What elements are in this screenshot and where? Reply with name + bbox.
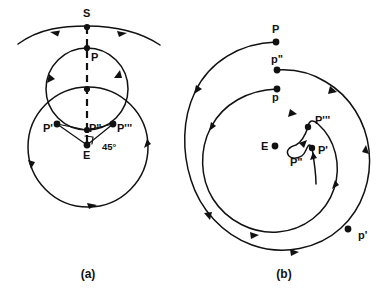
panel-a-group: S P P' P" P''' E 45° (a)	[18, 7, 160, 281]
label-P-prime: P'	[43, 122, 53, 134]
middle-arm-arrow-bottom	[250, 232, 259, 239]
label-b-P: P	[272, 23, 279, 35]
point-E	[84, 142, 91, 149]
label-S: S	[83, 7, 90, 19]
inner-loop-arrow-tail	[310, 152, 317, 160]
middle-arm-arrow-left	[209, 122, 216, 131]
label-P: P	[91, 51, 98, 63]
label-b-p-double-prime: p"	[271, 53, 283, 65]
label-b-P-double-prime: P"	[290, 156, 303, 168]
middle-arm-arrow-right	[332, 180, 339, 189]
label-b-E: E	[261, 140, 268, 152]
point-b-E	[272, 143, 279, 150]
sphere-arc-arrow-right	[117, 31, 127, 37]
point-b-P-prime	[309, 145, 315, 151]
label-b-P-prime: P'	[318, 144, 328, 156]
label-b-p: p	[272, 91, 279, 103]
point-P-triple-prime	[110, 121, 117, 128]
point-P-prime	[54, 121, 61, 128]
caption-panel-b: (b)	[276, 267, 291, 281]
point-b-P	[273, 39, 280, 46]
outer-arm-arrow-lower-left	[204, 212, 212, 220]
spiral-middle-arm	[203, 89, 338, 232]
label-b-P-triple-prime: P'''	[315, 114, 331, 126]
point-b-P-triple-prime	[305, 124, 311, 130]
point-epicycle-center	[84, 86, 90, 92]
middle-arm-arrow-upper	[288, 109, 297, 117]
caption-panel-a: (a)	[81, 267, 96, 281]
point-P	[84, 45, 90, 51]
label-P-triple-prime: P'''	[117, 122, 133, 134]
deferent-arrow-left	[28, 160, 35, 169]
figure-container: S P P' P" P''' E 45° (a)	[0, 0, 386, 298]
panel-b-group: P p" p P''' E P" P' p' (b)	[185, 23, 370, 281]
label-P-double-prime: P"	[89, 122, 102, 134]
label-b-p-prime: p'	[358, 229, 368, 241]
point-b-p-prime	[345, 226, 352, 233]
epicycle-arrow-right	[114, 70, 122, 78]
spiral-inner-arm	[287, 127, 312, 158]
astronomy-figure-svg: S P P' P" P''' E 45° (a)	[0, 0, 386, 298]
outer-arm-arrow-upper-left	[194, 85, 202, 94]
label-angle-45: 45°	[102, 141, 117, 152]
label-E: E	[83, 149, 90, 161]
point-b-p-double-prime	[274, 67, 281, 74]
sphere-arc-arrow-left	[50, 31, 60, 37]
outer-arm-arrow-upper-right	[328, 86, 337, 94]
point-S	[84, 24, 90, 30]
